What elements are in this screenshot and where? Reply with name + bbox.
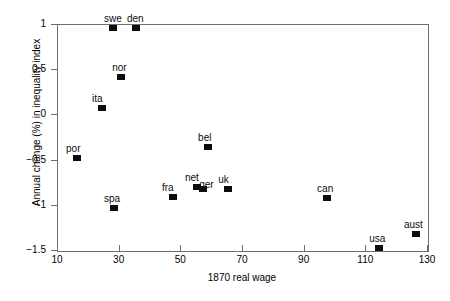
plot-axes-frame: [57, 24, 429, 252]
x-tick-mark: [180, 245, 181, 251]
data-point-marker: [110, 205, 118, 211]
x-tick-mark: [242, 245, 243, 251]
x-tick-mark: [119, 245, 120, 251]
data-point-label: spa: [104, 194, 120, 204]
data-point-label: swe: [104, 14, 122, 24]
y-tick-mark: [51, 114, 57, 115]
y-tick-mark: [51, 160, 57, 161]
x-tick-label: 130: [407, 254, 447, 265]
data-point-marker: [98, 105, 106, 111]
x-tick-label: 50: [160, 254, 200, 265]
x-axis-label: 1870 real wage: [57, 272, 427, 283]
x-tick-label: 10: [37, 254, 77, 265]
x-tick-mark: [57, 245, 58, 251]
x-tick-mark: [365, 245, 366, 251]
y-tick-mark: [51, 69, 57, 70]
data-point-marker: [204, 144, 212, 150]
data-point-marker: [169, 194, 177, 200]
data-point-label: can: [317, 184, 333, 194]
data-point-label: usa: [369, 234, 385, 244]
y-axis-label: Annual change (%) in inequality index: [31, 13, 42, 233]
data-point-marker: [412, 231, 420, 237]
data-point-label: aust: [404, 220, 423, 230]
data-point-marker: [375, 245, 383, 251]
data-point-marker: [109, 25, 117, 31]
data-point-marker: [132, 25, 140, 31]
x-tick-label: 70: [222, 254, 262, 265]
data-point-marker: [224, 186, 232, 192]
data-point-label: ger: [199, 180, 213, 190]
x-tick-mark: [304, 245, 305, 251]
data-point-marker: [73, 155, 81, 161]
data-point-marker: [117, 74, 125, 80]
y-tick-mark: [51, 205, 57, 206]
x-tick-label: 90: [284, 254, 324, 265]
scatter-plot-figure: 10.50−0.5−1−1.5 1030507090110130 swedenn…: [0, 0, 450, 301]
data-point-label: net: [185, 173, 199, 183]
x-tick-label: 30: [99, 254, 139, 265]
x-tick-mark: [427, 245, 428, 251]
data-point-marker: [323, 195, 331, 201]
y-tick-mark: [51, 24, 57, 25]
data-point-label: por: [66, 144, 80, 154]
x-tick-label: 110: [345, 254, 385, 265]
data-point-label: den: [127, 14, 144, 24]
data-point-label: nor: [112, 63, 126, 73]
data-point-label: uk: [218, 175, 229, 185]
data-point-label: fra: [162, 183, 174, 193]
data-point-label: ita: [92, 94, 103, 104]
data-point-label: bel: [198, 133, 211, 143]
